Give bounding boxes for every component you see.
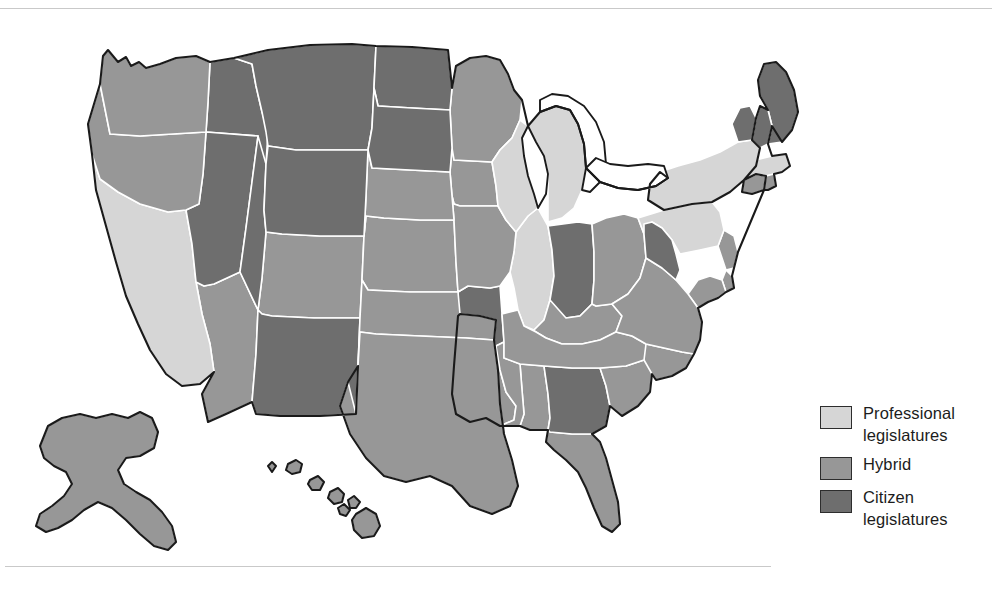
- state-ga[interactable]: Georgia — Citizen legislatures: [544, 366, 610, 434]
- state-wa[interactable]: Washington — Hybrid: [100, 50, 210, 136]
- map-svg: Alabama — HybridAlaska — HybridArizona —…: [0, 14, 800, 559]
- legend-item-hybrid[interactable]: Hybrid: [820, 454, 986, 480]
- legend-label-citizen: Citizen legislatures: [863, 487, 986, 531]
- state-hi[interactable]: Hawaii — Hybrid: [268, 460, 380, 538]
- state-wy[interactable]: Wyoming — Citizen legislatures: [264, 146, 368, 236]
- state-nd[interactable]: North Dakota — Citizen legislatures: [374, 46, 452, 110]
- state-co[interactable]: Colorado — Hybrid: [258, 232, 364, 318]
- choropleth-map: Alabama — HybridAlaska — HybridArizona —…: [0, 14, 800, 559]
- state-in[interactable]: Indiana — Citizen legislatures: [548, 222, 594, 318]
- legend-swatch-professional: [820, 406, 852, 429]
- legend: Professional legislatures Hybrid Citizen…: [820, 403, 986, 538]
- legend-item-professional[interactable]: Professional legislatures: [820, 403, 986, 447]
- bottom-divider-rule: [5, 566, 771, 567]
- figure-root: Alabama — HybridAlaska — HybridArizona —…: [0, 0, 992, 589]
- legend-label-hybrid: Hybrid: [863, 454, 911, 476]
- state-tx[interactable]: Texas — Hybrid: [340, 332, 518, 514]
- legend-swatch-hybrid: [820, 457, 852, 480]
- state-ks[interactable]: Kansas — Hybrid: [362, 216, 458, 292]
- states-layer: Alabama — HybridAlaska — HybridArizona —…: [36, 44, 798, 550]
- legend-swatch-citizen: [820, 490, 852, 513]
- top-divider-rule: [0, 8, 992, 9]
- legend-item-citizen[interactable]: Citizen legislatures: [820, 487, 986, 531]
- legend-label-professional: Professional legislatures: [863, 403, 986, 447]
